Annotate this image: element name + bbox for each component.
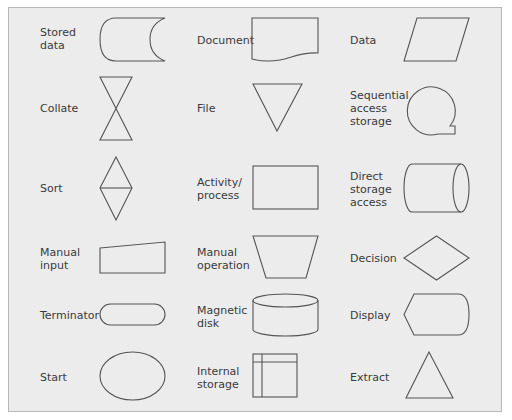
terminator-icon — [100, 304, 165, 325]
internal-storage-icon — [253, 354, 297, 397]
file-icon — [253, 84, 302, 131]
manual-input-icon — [100, 242, 165, 273]
collate-icon — [100, 77, 132, 140]
extract-icon — [406, 352, 453, 398]
direct-storage-access-icon — [404, 164, 469, 212]
stored-data-icon — [100, 18, 165, 61]
symbols-canvas — [0, 0, 512, 420]
data-icon — [404, 18, 469, 61]
sequential-access-storage-icon — [407, 87, 455, 135]
start-icon — [100, 352, 165, 400]
sort-icon — [100, 157, 132, 220]
display-icon — [404, 294, 469, 335]
manual-operation-icon — [253, 236, 318, 278]
activity-process-icon — [253, 166, 318, 209]
magnetic-disk-icon — [253, 294, 318, 336]
decision-icon — [404, 236, 469, 280]
document-icon — [252, 18, 318, 61]
